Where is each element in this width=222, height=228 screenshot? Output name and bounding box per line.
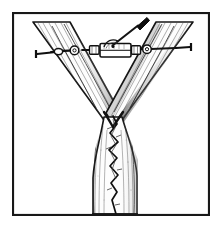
tree-cabling-illustration: Tree crotch cabling repair illustration <box>0 0 222 228</box>
cable-right-span <box>151 48 176 49</box>
right-eye-bolt-shank <box>176 47 190 48</box>
illustration-container: Tree crotch cabling repair illustration <box>0 0 222 228</box>
left-eye-bolt-eye <box>54 48 62 54</box>
right-thimble-inner <box>145 48 148 51</box>
left-thimble-inner <box>73 49 76 52</box>
right-thimble-ring <box>143 45 152 54</box>
turnbuckle-left-nut <box>90 46 100 54</box>
turnbuckle-right-nut <box>132 46 141 54</box>
left-thimble-ring <box>70 46 79 55</box>
